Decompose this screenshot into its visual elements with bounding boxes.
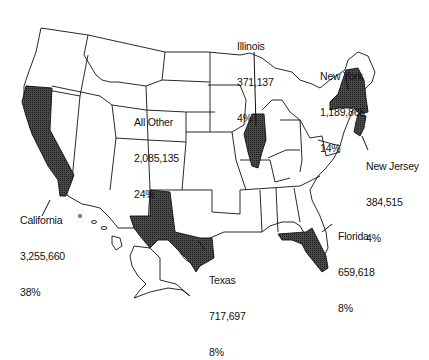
label-texas: Texas 717,697 8%	[209, 250, 246, 360]
label-california: California 3,255,660 38%	[20, 190, 65, 310]
label-name: California	[20, 214, 65, 226]
label-name: Texas	[209, 274, 246, 286]
label-florida: Florida 659,618 8%	[338, 206, 375, 326]
label-value: 3,255,660	[20, 250, 65, 262]
label-name: New Jersey	[366, 160, 419, 172]
label-pct: 14%	[320, 142, 365, 154]
label-new-york: New York 1,189,865 14%	[320, 46, 365, 166]
label-pct: 8%	[209, 346, 246, 358]
label-pct: 24%	[134, 188, 179, 200]
label-value: 2,085,135	[134, 152, 179, 164]
label-value: 1,189,865	[320, 106, 365, 118]
label-illinois: Illinois 371,137 4%	[237, 16, 274, 136]
label-value: 371,137	[237, 76, 274, 88]
label-pct: 4%	[237, 112, 274, 124]
label-pct: 8%	[338, 302, 375, 314]
label-name: Illinois	[237, 40, 274, 52]
label-pct: 38%	[20, 286, 65, 298]
label-value: 659,618	[338, 266, 375, 278]
label-value: 717,697	[209, 310, 246, 322]
label-name: All Other	[134, 116, 179, 128]
label-name: New York	[320, 70, 365, 82]
label-all-other: All Other 2,085,135 24%	[134, 92, 179, 212]
label-name: Florida	[338, 230, 375, 242]
